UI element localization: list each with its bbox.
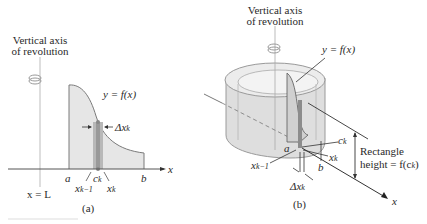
curve-label-a: y = f(x): [103, 89, 136, 100]
rect-close: ): [415, 158, 419, 170]
arrow-left-icon: [104, 125, 108, 129]
axis-title-a: Vertical axis of revolution: [10, 35, 70, 57]
xk-sub: k: [112, 185, 116, 194]
rectangle-height-label: Rectangle height = f(ck): [360, 146, 419, 171]
x-axis-label-a: x: [168, 164, 173, 175]
rotation-arrow-icon-b: [268, 44, 280, 53]
ck-sub: k: [98, 175, 102, 184]
xk-label-b: xk: [329, 152, 337, 164]
delta-xk-label-a: Δxk: [115, 122, 130, 134]
xk1-label-a: xk−1: [75, 183, 93, 195]
delta-text-b: Δx: [290, 180, 301, 192]
ck-label-a: ck: [93, 173, 101, 185]
axis-title-b-line2: of revolution: [245, 16, 305, 27]
rect-line1: Rectangle: [360, 146, 419, 157]
ck-top-point: [96, 120, 100, 124]
rect-line2: height = f(ck): [360, 159, 419, 171]
b-label-a: b: [141, 173, 147, 184]
a-label-a: a: [65, 173, 71, 184]
x-axis-label-b: x: [392, 196, 397, 207]
strip-rectangle-b: [298, 100, 302, 148]
ck-sub-b: k: [343, 137, 347, 146]
axis-title-b: Vertical axis of revolution: [245, 5, 305, 27]
delta-sub: k: [126, 124, 130, 133]
xk-label-a: xk: [107, 183, 115, 195]
xk1-sub-b: k−1: [256, 162, 269, 171]
xk1-label-b: xk−1: [251, 160, 269, 172]
axis-title-a-line2: of revolution: [10, 46, 70, 57]
caption-a: (a): [82, 203, 94, 214]
a-label-b: a: [284, 143, 290, 154]
b-label-b: b: [318, 162, 324, 173]
caption-b: (b): [293, 199, 306, 210]
delta-sub-b: k: [301, 183, 305, 192]
panel-b-graphics: [204, 26, 388, 199]
xk1-sub: k−1: [80, 185, 93, 194]
curve-label-b: y = f(x): [322, 44, 355, 55]
x-axis-arrow-icon: [160, 167, 166, 171]
delta-xk-label-b: Δxk: [290, 181, 305, 193]
panel-a-graphics: [8, 57, 166, 187]
x-equals-L-label: x = L: [27, 189, 51, 200]
ck-label-b: ck: [338, 135, 346, 147]
delta-text: Δx: [115, 121, 126, 133]
rotation-arrow-icon: [29, 75, 41, 84]
figure-caption-fragment: [8, 218, 78, 220]
rect-line2-text: height = f(c: [360, 158, 411, 170]
xk-sub-b: k: [334, 154, 338, 163]
x-axis-arrow-icon-b: [381, 192, 388, 199]
